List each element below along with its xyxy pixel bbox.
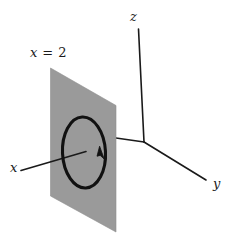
plane-label: x=2 [30, 45, 67, 60]
background [0, 0, 235, 251]
x-axis-label: x [10, 160, 18, 175]
plane-label-value: 2 [58, 45, 66, 60]
plane-label-operator: = [42, 45, 53, 60]
z-axis-label: z [129, 9, 137, 24]
figure-canvas: x=2 z y x [0, 0, 235, 251]
plane-label-variable: x [30, 45, 38, 60]
y-axis-label: y [212, 176, 221, 191]
diagram-svg: x=2 z y x [0, 0, 235, 251]
